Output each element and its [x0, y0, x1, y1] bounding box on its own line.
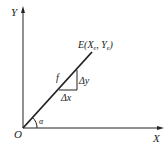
x-axis-label: X [152, 132, 161, 144]
angle-label: α [39, 117, 44, 126]
angle-arc [33, 118, 38, 129]
endpoint-label: E(Xe, Ye) [77, 39, 113, 51]
delta-x-label: Δx [60, 92, 72, 103]
line-oe [23, 52, 92, 128]
delta-y-label: Δy [78, 75, 90, 86]
y-axis-arrow-icon [21, 6, 25, 13]
y-axis-label: Y [11, 6, 19, 18]
linear-interpolation-diagram: Y X O α f Δy Δx E(Xe, Ye) [0, 0, 168, 151]
origin-label: O [14, 128, 22, 140]
function-label: f [56, 72, 60, 83]
x-axis-arrow-icon [157, 126, 164, 130]
